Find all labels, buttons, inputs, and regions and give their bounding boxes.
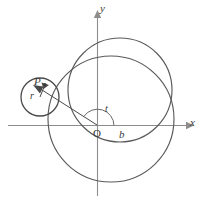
origin-label: O: [93, 128, 101, 139]
angle-t-label: t: [105, 104, 108, 114]
x-axis-label: x: [190, 117, 195, 128]
radius-r-label: r: [30, 91, 34, 101]
inner-circle: [48, 56, 174, 182]
trochoid-figure: [0, 0, 204, 202]
angle-arc-t: [84, 109, 114, 125]
figure-container: y x O b t P r: [0, 0, 204, 202]
y-axis-label: y: [100, 3, 105, 14]
y-axis: [94, 10, 101, 196]
distance-b-label: b: [119, 129, 125, 140]
point-p-label: P: [34, 76, 41, 87]
x-axis: [8, 122, 194, 129]
outer-circle: [68, 38, 172, 142]
point-p-marker: [44, 83, 47, 86]
